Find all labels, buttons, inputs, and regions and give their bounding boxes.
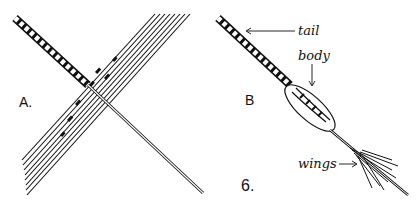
panel-a-tail [15,18,203,193]
wings-annotation: wings [298,157,337,170]
panel-b-tail [218,18,290,85]
panel-b-stick [330,130,408,195]
body-annotation: body [298,49,330,62]
panel-a-label: A. [19,95,32,109]
tail-annotation: tail [298,24,319,37]
panel-b-label: B [245,93,254,107]
figure-number: 6. [241,178,254,194]
panel-b-wings [350,148,398,190]
panel-a-strand-bundle [22,14,190,195]
panel-b-body [278,78,342,139]
illustration-drawing [0,0,420,208]
